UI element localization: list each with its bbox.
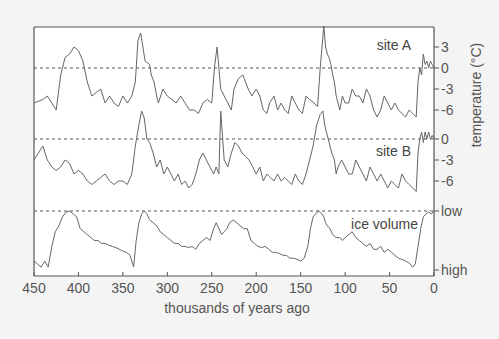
x-tick-label: 350 bbox=[111, 280, 135, 296]
series-label-site-b: site B bbox=[376, 143, 411, 159]
y-axis-label: temperature (°C) bbox=[468, 43, 484, 147]
x-tick-label: 0 bbox=[430, 280, 438, 296]
y-tick-label: 3 bbox=[441, 39, 449, 55]
x-tick-label: 50 bbox=[382, 280, 398, 296]
y-tick-label: high bbox=[441, 262, 467, 278]
y-tick-label: 0 bbox=[441, 60, 449, 76]
plot-area bbox=[34, 27, 434, 276]
y-tick-label: 0 bbox=[441, 131, 449, 147]
y-tick-label: -6 bbox=[441, 173, 454, 189]
y-tick-label: -3 bbox=[441, 152, 454, 168]
paleoclimate-chart: 450400350300250200150100500 30-3-60-3-6l… bbox=[0, 0, 499, 339]
x-tick-label: 450 bbox=[22, 280, 46, 296]
series-label-ice-volume: ice volume bbox=[351, 216, 418, 232]
y-tick-label: low bbox=[441, 203, 463, 219]
x-tick-label: 300 bbox=[156, 280, 180, 296]
x-tick-label: 250 bbox=[200, 280, 224, 296]
x-axis-label: thousands of years ago bbox=[164, 300, 310, 316]
x-tick-label: 400 bbox=[67, 280, 91, 296]
x-tick-label: 150 bbox=[289, 280, 313, 296]
x-tick-label: 100 bbox=[333, 280, 357, 296]
y-tick-label: -3 bbox=[441, 81, 454, 97]
series-label-site-a: site A bbox=[377, 37, 412, 53]
y-tick-label: -6 bbox=[441, 102, 454, 118]
x-tick-label: 200 bbox=[245, 280, 269, 296]
